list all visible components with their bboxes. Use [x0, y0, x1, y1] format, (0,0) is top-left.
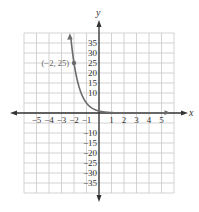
- y-axis-top-arrow-icon: [97, 20, 102, 27]
- y-tick-label: 35: [88, 38, 98, 48]
- y-tick-label: −20: [83, 148, 98, 158]
- x-axis-left-arrow-icon: [10, 111, 17, 116]
- curve-line: [71, 38, 167, 113]
- x-tick-label: −1: [82, 115, 92, 125]
- x-axis-right-arrow-icon: [181, 111, 188, 116]
- x-tick-label: 1: [109, 115, 114, 125]
- x-tick-label: 2: [122, 115, 127, 125]
- y-tick-label: −10: [83, 128, 98, 138]
- y-tick-label: 30: [88, 48, 98, 58]
- x-tick-label: −4: [44, 115, 54, 125]
- x-axis-label: x: [188, 107, 194, 118]
- y-axis-bottom-arrow-icon: [97, 195, 102, 202]
- y-tick-label: −25: [83, 158, 98, 168]
- curve-top-arrow-icon: [67, 33, 72, 40]
- x-tick-label: 4: [147, 115, 152, 125]
- y-tick-label: −30: [83, 168, 98, 178]
- curve-right-arrow-icon: [165, 110, 171, 115]
- x-tick-label: 5: [159, 115, 164, 125]
- x-tick-label: −5: [32, 115, 42, 125]
- y-tick-label: −35: [83, 178, 98, 188]
- x-tick-label: −3: [57, 115, 67, 125]
- x-tick-label: 3: [134, 115, 139, 125]
- x-tick-label: −2: [69, 115, 79, 125]
- point-label: (−2, 25): [42, 58, 70, 68]
- y-tick-label: 20: [88, 68, 98, 78]
- point-marker: [72, 61, 76, 65]
- y-tick-label: −15: [83, 138, 98, 148]
- y-axis-label: y: [95, 7, 101, 18]
- y-tick-label: 10: [88, 88, 98, 98]
- y-tick-label: 15: [88, 78, 98, 88]
- function-graph: x y −5−4−3−2−112345353025201510−10−15−20…: [0, 0, 199, 212]
- y-tick-label: 25: [88, 58, 98, 68]
